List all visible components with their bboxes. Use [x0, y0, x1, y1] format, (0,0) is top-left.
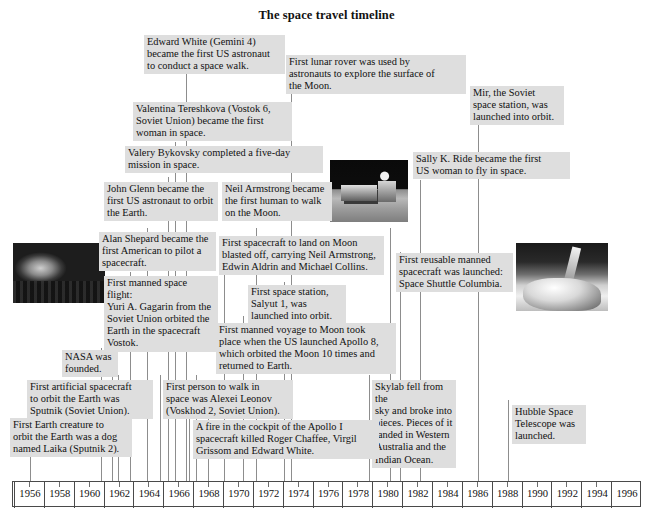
event-box-gagarin: First manned space flight: Yuri A. Gagar… — [104, 276, 218, 352]
axis-tick-minor — [537, 482, 538, 487]
event-box-apollo-1: A fire in the cockpit of the Apollo I sp… — [193, 420, 379, 459]
axis-tick-minor — [387, 482, 388, 487]
axis-tick-minor — [119, 482, 120, 487]
axis-year-label: 1958 — [45, 487, 75, 501]
axis-year-label: 1960 — [75, 487, 105, 501]
axis-year-label: 1990 — [523, 487, 553, 501]
event-box-sputnik: First artificial spacecraft to orbit the… — [27, 380, 153, 419]
leader-line — [160, 375, 161, 483]
axis-year-label: 1974 — [284, 487, 314, 501]
axis-tick-minor — [29, 482, 30, 487]
axis-tick-minor — [507, 482, 508, 487]
event-box-columbia: First reusable manned spacecraft was lau… — [396, 253, 513, 292]
axis-tick-minor — [178, 482, 179, 487]
sputnik-photo — [13, 243, 105, 303]
axis-tick-minor — [208, 482, 209, 487]
event-box-apollo-11: First spacecraft to land on Moon blasted… — [219, 236, 384, 275]
axis-tick-minor — [298, 482, 299, 487]
lunar-rover-photo — [330, 160, 408, 222]
timeline-infographic: The space travel timeline Edward White (… — [0, 0, 653, 527]
axis-year-label: 1992 — [552, 487, 582, 501]
event-box-edward-white: Edward White (Gemini 4) became the first… — [144, 35, 285, 74]
axis-year-label: 1982 — [403, 487, 433, 501]
axis-year-label: 1978 — [343, 487, 373, 501]
axis-tick-minor — [328, 482, 329, 487]
axis-tick-minor — [238, 482, 239, 487]
event-box-laika: First Earth creature to orbit the Earth … — [10, 418, 132, 457]
axis-tick-minor — [477, 482, 478, 487]
event-box-armstrong: Neil Armstrong became the first human to… — [222, 182, 332, 221]
axis-year-label: 1984 — [433, 487, 463, 501]
axis-year-label: 1964 — [134, 487, 164, 501]
axis-year-label: 1956 — [15, 487, 45, 501]
event-box-sally-ride: Sally K. Ride became the first US woman … — [413, 152, 570, 179]
event-box-hubble: Hubble Space Telescope was launched. — [512, 405, 586, 444]
leader-line — [508, 400, 509, 483]
axis-year-label: 1980 — [373, 487, 403, 501]
event-box-john-glenn: John Glenn became the first US astronaut… — [104, 182, 218, 221]
axis-tick-minor — [596, 482, 597, 487]
axis-tick-minor — [447, 482, 448, 487]
axis-year-label: 1996 — [612, 487, 642, 501]
axis-year-label: 1976 — [314, 487, 344, 501]
leader-line — [189, 412, 190, 483]
axis-year-label: 1966 — [164, 487, 194, 501]
axis-year-label: 1994 — [582, 487, 612, 501]
event-box-shepard: Alan Shepard became the first American t… — [99, 232, 216, 271]
axis-tick-minor — [268, 482, 269, 487]
event-box-nasa: NASA was founded. — [62, 350, 118, 377]
event-box-lunar-rover: First lunar rover was used by astronauts… — [286, 55, 466, 94]
event-box-tereshkova: Valentina Tereshkova (Vostok 6, Soviet U… — [133, 102, 292, 141]
axis-tick-minor — [89, 482, 90, 487]
event-box-leonov: First person to walk in space was Alexei… — [163, 380, 293, 419]
axis-year-label: 1968 — [194, 487, 224, 501]
page-title: The space travel timeline — [0, 8, 653, 23]
axis-year-label: 1970 — [224, 487, 254, 501]
axis-year-label: 1988 — [493, 487, 523, 501]
timeline-axis: 1956195819601962196419661968197019721974… — [12, 481, 641, 507]
event-box-apollo-8: First manned voyage to Moon took place w… — [216, 323, 396, 374]
axis-tick-minor — [566, 482, 567, 487]
space-shuttle-photo — [516, 243, 608, 311]
axis-tick-minor — [417, 482, 418, 487]
axis-year-label: 1986 — [463, 487, 493, 501]
axis-year-label: 1962 — [105, 487, 135, 501]
axis-tick-minor — [148, 482, 149, 487]
event-box-skylab: Skylab fell from the sky and broke into … — [372, 380, 456, 468]
axis-tick-minor — [357, 482, 358, 487]
event-box-bykovsky: Valery Bykovsky completed a five-day mis… — [125, 146, 323, 173]
event-box-mir: Mir, the Soviet space station, was launc… — [470, 86, 564, 125]
axis-tick-minor — [59, 482, 60, 487]
axis-year-label: 1972 — [254, 487, 284, 501]
event-box-salyut: First space station, Salyut 1, was launc… — [248, 285, 346, 324]
